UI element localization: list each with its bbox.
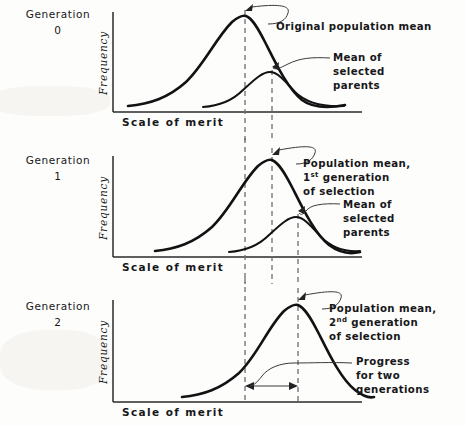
annotation-progress-for-two-generations: Progress for two generations (356, 355, 429, 397)
leader-mean-of-selected-parents (272, 58, 330, 70)
annotation-population-mean-gen2: Population mean, 2nd generation of selec… (329, 302, 436, 344)
panel-generation-1: Generation 1 Frequency Scale of merit Po… (0, 142, 465, 284)
selected-parents-curve (203, 72, 344, 107)
panel-generation-0: Generation 0 Frequency Scale of merit Or… (0, 0, 465, 142)
arrow-left-head (245, 382, 254, 390)
ordinal-second: 2nd (329, 317, 347, 328)
selection-response-figure: Generation 0 Frequency Scale of merit Or… (0, 0, 465, 426)
progress-span-arrow (245, 382, 298, 390)
annotation-mean-of-selected-parents: Mean of selected parents (333, 51, 385, 93)
panel-generation-2: Generation 2 Frequency Scale of merit (0, 284, 465, 426)
annotation-population-mean-gen1: Population mean, 1st generation of selec… (303, 157, 410, 199)
arrow-right-head (289, 382, 298, 390)
leader-mean-of-selected-parents (298, 204, 340, 215)
selected-parents-curve (229, 217, 360, 252)
annotation-original-population-mean: Original population mean (276, 20, 432, 34)
ordinal-first: 1st (303, 172, 319, 183)
annotation-mean-of-selected-parents: Mean of selected parents (343, 198, 395, 240)
